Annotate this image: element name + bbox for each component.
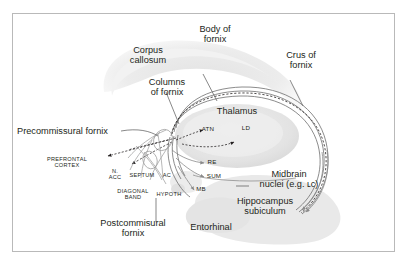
fornix-diagram-figure: Corpus callosum Body of fornix Crus of f… (0, 0, 406, 266)
leader-body-of-fornix (203, 74, 217, 101)
corpus-callosum-shape (104, 41, 302, 112)
hypothalamus-shape (170, 171, 202, 195)
temporal-lobe-mass (186, 175, 341, 245)
diagram-canvas (0, 0, 406, 266)
leader-precommissural (121, 130, 158, 136)
leader-columns-of-fornix (166, 92, 179, 124)
thalamus-shape (175, 104, 299, 168)
fiber-crossing-tangle (128, 126, 176, 184)
